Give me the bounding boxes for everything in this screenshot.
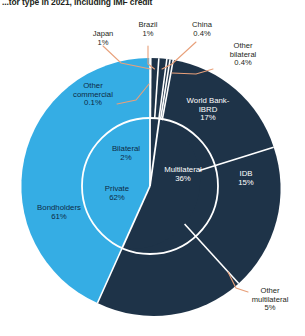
- label-multilateral: Multilateral 36%: [152, 166, 214, 183]
- label-other-multilateral: Other multilateral 5%: [240, 287, 300, 313]
- label-world-bank-ibrd: World Bank- IBRD 17%: [172, 97, 244, 123]
- label-china: China 0.4%: [175, 21, 229, 38]
- label-private: Private 62%: [93, 185, 141, 202]
- label-idb: IDB 15%: [226, 170, 266, 187]
- pie-chart-figure: ...tor type in 2021, including IMF credi…: [0, 0, 305, 336]
- label-bilateral: Bilateral 2%: [100, 145, 152, 162]
- label-other-commercial: Other commercial 0.1%: [62, 82, 124, 108]
- label-other-bilateral: Other bilateral 0.4%: [215, 42, 271, 68]
- label-bondholders: Bondholders 61%: [22, 204, 96, 221]
- label-brazil: Brazil 1%: [122, 21, 174, 38]
